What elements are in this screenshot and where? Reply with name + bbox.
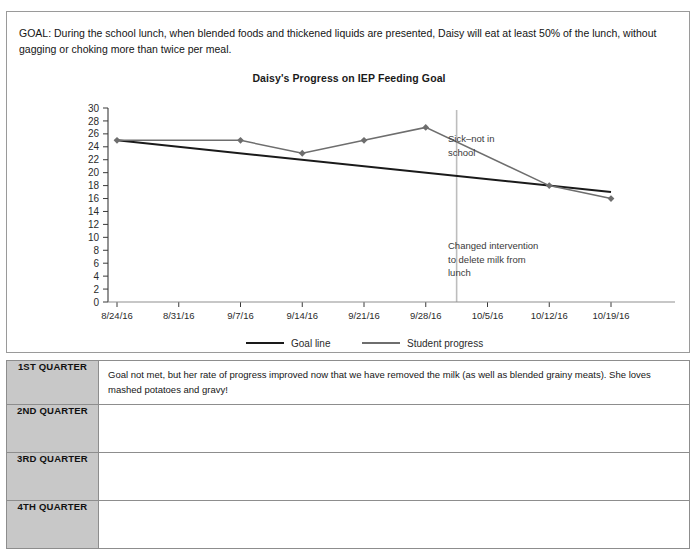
svg-text:Changed intervention: Changed intervention (448, 240, 538, 251)
svg-text:0: 0 (93, 297, 99, 308)
svg-text:8/31/16: 8/31/16 (163, 310, 195, 321)
svg-text:10/12/16: 10/12/16 (531, 310, 568, 321)
quarter-label-1: 1ST QUARTER (7, 361, 99, 405)
quarter-note-4[interactable] (99, 501, 690, 549)
goal-box: GOAL: During the school lunch, when blen… (6, 11, 690, 353)
svg-text:9/14/16: 9/14/16 (286, 310, 318, 321)
svg-text:2: 2 (93, 284, 99, 295)
svg-text:9/28/16: 9/28/16 (410, 310, 442, 321)
svg-text:30: 30 (88, 103, 100, 114)
svg-text:22: 22 (88, 154, 100, 165)
chart-series (114, 124, 615, 202)
svg-text:Goal line: Goal line (291, 338, 331, 349)
table-row: 1ST QUARTERGoal not met, but her rate of… (7, 361, 690, 405)
chart-plot-area: 024681012141618202224262830 8/24/168/31/… (7, 64, 691, 354)
table-row: 3RD QUARTER (7, 453, 690, 501)
svg-text:28: 28 (88, 116, 100, 127)
svg-text:14: 14 (88, 206, 100, 217)
quarter-notes-table: 1ST QUARTERGoal not met, but her rate of… (6, 360, 690, 549)
goal-statement: GOAL: During the school lunch, when blen… (19, 26, 679, 57)
x-axis-ticks: 8/24/168/31/169/7/169/14/169/21/169/28/1… (101, 302, 629, 321)
quarter-note-2[interactable] (99, 405, 690, 453)
svg-text:24: 24 (88, 141, 100, 152)
progress-chart: Daisy's Progress on IEP Feeding Goal 024… (7, 64, 691, 354)
svg-text:9/21/16: 9/21/16 (348, 310, 380, 321)
svg-text:Sick–not in: Sick–not in (448, 133, 494, 144)
quarter-label-4: 4TH QUARTER (7, 501, 99, 549)
svg-text:8/24/16: 8/24/16 (101, 310, 133, 321)
chart-axes (108, 108, 675, 302)
svg-text:8: 8 (93, 245, 99, 256)
chart-legend: Goal lineStudent progress (246, 338, 483, 349)
svg-text:20: 20 (88, 167, 100, 178)
quarter-label-3: 3RD QUARTER (7, 453, 99, 501)
svg-text:Student progress: Student progress (407, 338, 483, 349)
quarter-note-3[interactable] (99, 453, 690, 501)
svg-text:10/5/16: 10/5/16 (472, 310, 504, 321)
svg-text:10/19/16: 10/19/16 (593, 310, 630, 321)
quarter-note-1[interactable]: Goal not met, but her rate of progress i… (99, 361, 690, 405)
svg-text:school: school (448, 147, 475, 158)
svg-text:4: 4 (93, 271, 99, 282)
svg-text:6: 6 (93, 258, 99, 269)
svg-text:10: 10 (88, 232, 100, 243)
y-axis-ticks: 024681012141618202224262830 (88, 103, 108, 308)
svg-text:to delete milk from: to delete milk from (448, 254, 526, 265)
svg-text:16: 16 (88, 193, 100, 204)
table-row: 4TH QUARTER (7, 501, 690, 549)
svg-text:26: 26 (88, 128, 100, 139)
svg-text:18: 18 (88, 180, 100, 191)
chart-annotations: Sick–not inschoolChanged interventionto … (448, 133, 538, 278)
quarter-label-2: 2ND QUARTER (7, 405, 99, 453)
svg-text:9/7/16: 9/7/16 (227, 310, 253, 321)
svg-text:12: 12 (88, 219, 100, 230)
svg-text:lunch: lunch (448, 267, 471, 278)
table-row: 2ND QUARTER (7, 405, 690, 453)
